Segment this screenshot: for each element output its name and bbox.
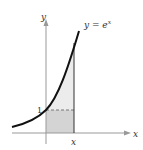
y-tick-label: 1	[37, 106, 42, 115]
x-axis-arrow-icon	[124, 131, 131, 136]
exponential-area-diagram: y x x 1 y = ex	[0, 0, 143, 150]
x-axis-label: x	[133, 129, 138, 139]
unit-rectangle	[46, 110, 74, 133]
y-axis-label: y	[40, 12, 47, 22]
x-tick-label: x	[71, 137, 76, 147]
curve-label: y = ex	[83, 18, 112, 30]
diagram-canvas: y x x 1 y = ex	[0, 0, 143, 150]
